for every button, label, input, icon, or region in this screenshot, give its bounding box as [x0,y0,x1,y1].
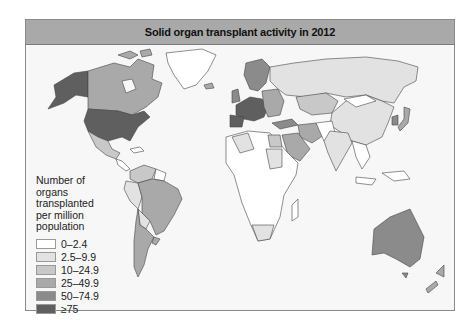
legend-label: ≥75 [61,303,78,315]
region-southeast-asia [352,141,370,169]
legend-item: 25–49.9 [36,277,116,289]
region-scandinavia [244,59,270,91]
legend-item: 10–24.9 [36,264,116,276]
legend-swatch [36,278,56,288]
legend-label: 2.5–9.9 [61,251,96,263]
legend-item: 0–2.4 [36,238,116,250]
region-uk [232,89,240,103]
region-iceland [204,83,214,89]
legend-swatch [36,304,56,314]
region-south-africa [252,225,274,241]
legend-title-line: Number of [36,175,116,187]
region-iberia [230,115,244,127]
region-russia [270,57,418,103]
legend-item: 2.5–9.9 [36,251,116,263]
legend-item: ≥75 [36,303,116,315]
region-guianas [154,169,166,181]
map-figure: Solid organ transplant activity in 2012 [25,19,455,311]
legend-swatch [36,265,56,275]
map-legend: Number of organs transplanted per millio… [36,175,116,316]
legend-label: 25–49.9 [61,277,99,289]
region-turkey [272,119,298,129]
title-bar: Solid organ transplant activity in 2012 [26,20,454,45]
legend-label: 0–2.4 [61,238,87,250]
region-alaska [48,71,88,109]
region-new-zealand [426,265,444,293]
legend-title: Number of organs transplanted per millio… [36,175,116,233]
region-canada-islands [118,49,152,59]
legend-title-line: population [36,221,116,233]
region-madagascar [292,199,298,221]
legend-swatch [36,252,56,262]
legend-item: 50–74.9 [36,290,116,302]
region-india [324,131,352,171]
legend-swatch [36,239,56,249]
region-kazakhstan [296,93,338,115]
legend-label: 50–74.9 [61,290,99,302]
region-caribbean [130,147,144,153]
region-south-korea [392,115,398,125]
region-egypt [268,135,282,147]
region-greenland [166,49,216,89]
region-tasmania [402,273,408,278]
region-australia [372,209,424,267]
legend-label: 10–24.9 [61,264,99,276]
legend-title-line: transplanted [36,198,116,210]
region-central-america [116,159,130,171]
legend-swatch [36,291,56,301]
map-title: Solid organ transplant activity in 2012 [145,26,335,38]
region-indonesia [356,171,410,185]
region-japan [398,107,410,131]
